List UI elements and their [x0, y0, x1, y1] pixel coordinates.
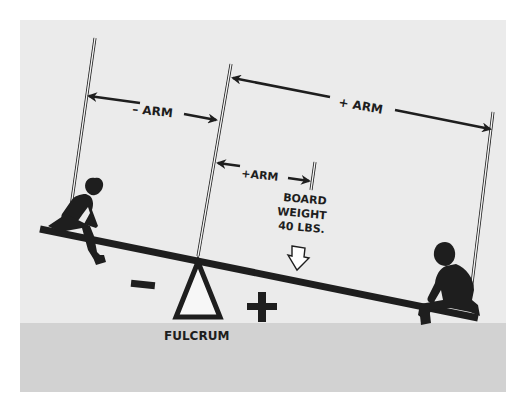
board-center-pole — [311, 162, 315, 190]
down-arrow-icon — [288, 246, 309, 270]
plus-arm-short-arrow: +ARM — [218, 163, 309, 184]
fulcrum-label: FULCRUM — [164, 329, 229, 343]
left-child-silhouette — [48, 178, 106, 265]
minus-arm-arrow: – ARM — [89, 96, 216, 120]
plus-arm-short-label: +ARM — [241, 167, 279, 184]
board-weight-label: BOARD WEIGHT 40 LBS. — [277, 191, 328, 236]
minus-sign — [131, 280, 156, 289]
svg-text:40 LBS.: 40 LBS. — [278, 219, 326, 236]
plus-arm-long-label: + ARM — [337, 95, 383, 117]
plus-arm-long-arrow: + ARM — [233, 78, 490, 129]
fulcrum-triangle — [176, 262, 220, 317]
minus-arm-label: – ARM — [132, 102, 174, 120]
plus-sign — [247, 292, 277, 322]
right-pole — [470, 112, 493, 300]
seesaw-diagram: – ARM + ARM +ARM BOARD WEIGHT 40 LBS. FU… — [0, 0, 517, 408]
center-pole — [198, 64, 231, 256]
